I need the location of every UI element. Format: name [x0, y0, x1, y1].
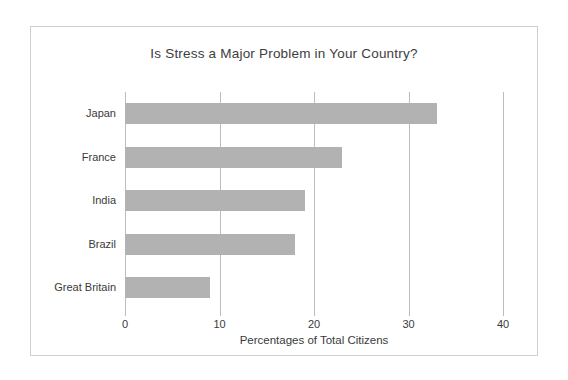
chart-title: Is Stress a Major Problem in Your Countr… [0, 46, 568, 61]
x-axis-label: Percentages of Total Citizens [125, 334, 503, 346]
xtick-mark-0 [125, 310, 126, 316]
xtick-label-10: 10 [213, 318, 225, 330]
bar-france[interactable] [125, 147, 342, 168]
xtick-label-20: 20 [308, 318, 320, 330]
xtick-label-40: 40 [497, 318, 509, 330]
xtick-label-30: 30 [402, 318, 414, 330]
category-label-brazil: Brazil [88, 234, 116, 255]
gridline-40 [503, 92, 504, 310]
bar-india[interactable] [125, 190, 305, 211]
xtick-mark-20 [314, 310, 315, 316]
bar-brazil[interactable] [125, 234, 295, 255]
gridline-30 [409, 92, 410, 310]
xtick-mark-10 [220, 310, 221, 316]
xtick-mark-30 [409, 310, 410, 316]
plot-area: Japan France India Brazil Great Britain … [125, 92, 503, 310]
bar-japan[interactable] [125, 103, 437, 124]
bar-great-britain[interactable] [125, 277, 210, 298]
category-label-japan: Japan [86, 103, 116, 124]
xtick-mark-40 [503, 310, 504, 316]
gridline-20 [314, 92, 315, 310]
category-label-great-britain: Great Britain [54, 277, 116, 298]
category-label-india: India [92, 190, 116, 211]
category-label-france: France [82, 147, 116, 168]
xtick-label-0: 0 [122, 318, 128, 330]
